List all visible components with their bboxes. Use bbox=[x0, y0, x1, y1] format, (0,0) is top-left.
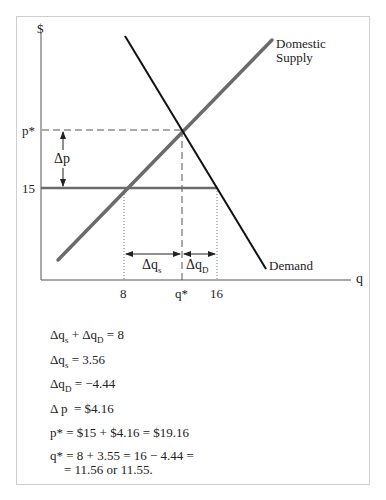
delta-qs-label: Δqs bbox=[142, 258, 162, 275]
demand-curve bbox=[125, 36, 266, 269]
price-15-tick-label: 15 bbox=[22, 182, 35, 195]
delta-qd-label: ΔqD bbox=[186, 258, 209, 275]
demand-label: Demand bbox=[269, 259, 313, 272]
equations-block: Δqs + ΔqD = 8 Δqs = 3.56 ΔqD = −4.44 Δ p… bbox=[50, 326, 194, 477]
x-axis-label: q bbox=[356, 272, 363, 286]
equation-3: ΔqD = −4.44 bbox=[50, 375, 194, 400]
delta-p-label: Δp bbox=[54, 152, 70, 166]
x-tick-8: 8 bbox=[120, 287, 127, 300]
equation-5: p* = $15 + $4.16 = $19.16 bbox=[50, 424, 194, 449]
x-tick-16: 16 bbox=[210, 287, 223, 300]
equation-2: Δqs = 3.56 bbox=[50, 351, 194, 376]
equation-6: q* = 8 + 3.55 = 16 − 4.44 == 11.56 or 11… bbox=[50, 449, 194, 477]
supply-label-line2: Supply bbox=[276, 51, 313, 64]
p-star-tick-label: p* bbox=[22, 124, 35, 137]
equation-4: Δ p = $4.16 bbox=[50, 400, 194, 425]
supply-label-line1: Domestic bbox=[276, 37, 326, 50]
equation-1: Δqs + ΔqD = 8 bbox=[50, 326, 194, 351]
x-tick-q-star: q* bbox=[175, 287, 188, 300]
y-axis-label: $ bbox=[37, 22, 44, 35]
